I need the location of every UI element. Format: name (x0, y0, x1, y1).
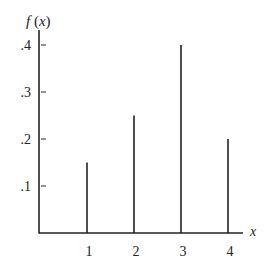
y-tick-label: .1 (21, 179, 32, 194)
y-axis-label: f (x) (26, 13, 51, 30)
x-tick-label: 4 (227, 244, 234, 259)
x-tick-label: 2 (133, 244, 140, 259)
y-tick-label: .3 (21, 85, 32, 100)
y-tick-label: .2 (21, 132, 32, 147)
x-tick-label: 1 (86, 244, 93, 259)
x-tick-label: 3 (180, 244, 187, 259)
y-tick-label: .4 (21, 38, 32, 53)
chart: .1.2.3.41234xf (x) (0, 0, 266, 269)
x-axis-label: x (249, 224, 257, 239)
pmf-chart: .1.2.3.41234xf (x) (0, 0, 266, 269)
